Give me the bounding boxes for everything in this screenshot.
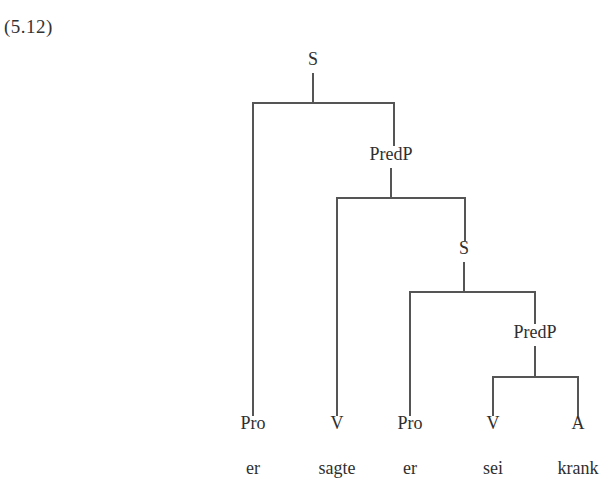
terminal-category-a: A xyxy=(572,414,585,432)
terminal-category-v-1: V xyxy=(331,414,344,432)
word-er-2: er xyxy=(403,459,417,477)
word-sei: sei xyxy=(483,459,503,477)
word-er-1: er xyxy=(246,459,260,477)
node-label-predp-upper: PredP xyxy=(369,145,412,163)
terminal-category-pro-1: Pro xyxy=(240,414,265,432)
terminal-category-v-2: V xyxy=(487,414,500,432)
figure-canvas: (5.12) xyxy=(0,0,602,485)
node-label-predp-lower: PredP xyxy=(513,323,556,341)
word-sagte: sagte xyxy=(319,459,356,477)
syntax-tree-lines xyxy=(0,0,602,485)
node-label-s-root: S xyxy=(308,50,318,68)
node-label-s-embedded: S xyxy=(459,239,469,257)
word-krank: krank xyxy=(558,459,599,477)
terminal-category-pro-2: Pro xyxy=(397,414,422,432)
